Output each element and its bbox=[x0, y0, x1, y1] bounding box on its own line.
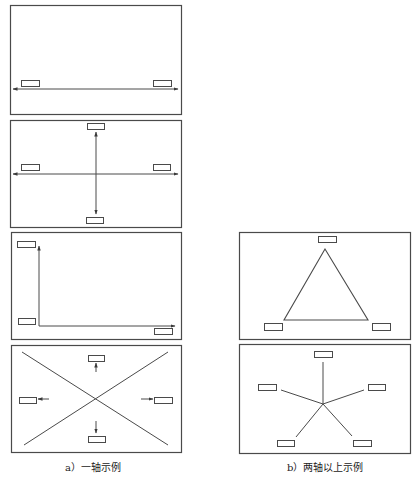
panel-frame bbox=[12, 233, 182, 340]
label-box bbox=[89, 437, 106, 443]
label-box bbox=[278, 441, 295, 447]
panel-multi-axis-star bbox=[240, 345, 411, 454]
label-box bbox=[354, 441, 372, 447]
label-box bbox=[369, 385, 386, 391]
panel-multi-axis-triangle bbox=[240, 233, 411, 340]
panel-frame bbox=[11, 6, 182, 115]
label-box bbox=[154, 165, 171, 171]
panel-frame bbox=[240, 345, 411, 454]
label-box bbox=[88, 124, 105, 130]
panel-one-axis-horizontal bbox=[11, 6, 182, 115]
label-box bbox=[319, 237, 337, 243]
axis-line bbox=[323, 390, 364, 404]
label-box bbox=[154, 81, 172, 87]
label-box bbox=[373, 324, 391, 331]
label-box bbox=[87, 218, 104, 224]
label-box bbox=[315, 352, 333, 358]
label-box bbox=[265, 324, 283, 331]
label-box bbox=[259, 385, 277, 391]
panel-one-axis-x bbox=[12, 346, 182, 453]
axis-line bbox=[281, 390, 323, 404]
label-box bbox=[155, 329, 173, 335]
caption-multi-axis-examples: b）两轴以上示例 bbox=[287, 459, 363, 474]
label-box bbox=[22, 81, 40, 87]
label-box bbox=[20, 398, 37, 404]
axis-line bbox=[296, 404, 323, 437]
label-box bbox=[155, 398, 173, 404]
panel-one-axis-cross bbox=[11, 121, 182, 228]
panel-one-axis-corner bbox=[12, 233, 182, 340]
label-box bbox=[18, 242, 36, 248]
label-box bbox=[89, 356, 105, 362]
caption-one-axis-examples: a）一轴示例 bbox=[65, 459, 121, 474]
axis-line bbox=[323, 404, 352, 436]
axis-diagram-canvas bbox=[0, 0, 415, 479]
label-box bbox=[19, 319, 36, 325]
label-box bbox=[22, 165, 40, 171]
triangle-axes bbox=[284, 249, 368, 320]
